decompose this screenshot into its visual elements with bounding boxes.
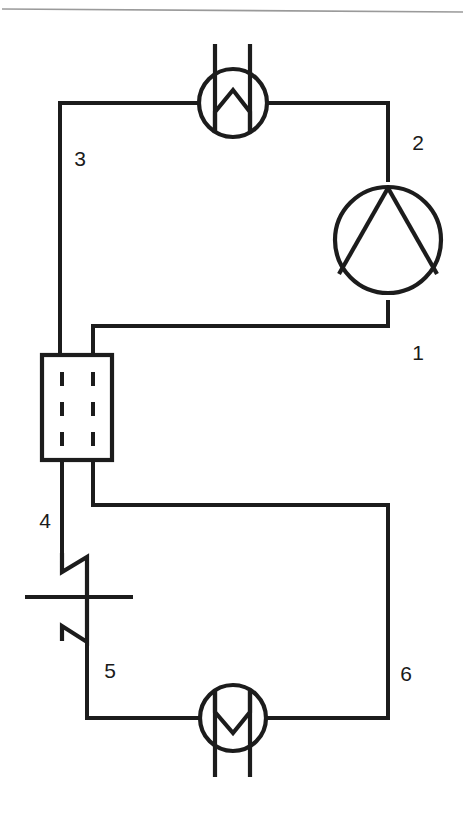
state-label-1: 1 — [412, 341, 424, 364]
page-divider-rule — [2, 9, 463, 12]
pipe-2-compressor-to-condenser — [267, 103, 388, 182]
condenser[interactable] — [199, 44, 267, 137]
compressor-chord-right — [388, 188, 437, 274]
state-label-6: 6 — [400, 662, 412, 685]
compressor-circle — [335, 187, 441, 293]
compressor[interactable] — [335, 187, 441, 293]
diagram-page: 1 2 3 4 5 6 — [0, 0, 465, 823]
compressor-chord-left — [339, 188, 388, 274]
pipe-1-hx-to-compressor — [93, 300, 388, 357]
evaporator-m-glyph — [215, 691, 250, 733]
evaporator-circle — [200, 685, 266, 751]
state-label-5: 5 — [104, 659, 116, 682]
state-label-3: 3 — [74, 147, 86, 170]
evaporator[interactable] — [200, 685, 266, 777]
condenser-circle — [199, 69, 267, 137]
pipe-6-evaporator-to-hx — [93, 458, 388, 718]
state-point-labels: 1 2 3 4 5 6 — [39, 131, 424, 685]
internal-heat-exchanger[interactable] — [42, 355, 112, 460]
state-label-2: 2 — [412, 131, 424, 154]
expansion-valve[interactable] — [25, 553, 133, 642]
heat-exchanger-body — [42, 355, 112, 460]
condenser-w-glyph — [215, 90, 250, 133]
pipe-3-condenser-to-hx — [60, 103, 199, 357]
pipe-network — [60, 103, 388, 718]
refrigeration-cycle-diagram: 1 2 3 4 5 6 — [0, 0, 465, 823]
state-label-4: 4 — [39, 509, 51, 532]
